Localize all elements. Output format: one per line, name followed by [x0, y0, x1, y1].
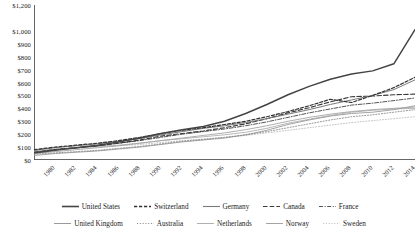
x-axis-tick-label: 1990 [148, 164, 162, 178]
x-axis-tick-label: 1986 [105, 164, 119, 178]
legend-swatch-icon [54, 220, 71, 227]
legend-label: Norway [286, 220, 309, 228]
legend-label: France [339, 203, 359, 211]
x-axis-tick-label: 2010 [359, 164, 373, 178]
x-axis-tick-label: 1998 [232, 164, 246, 178]
legend-item-canada[interactable]: Canada [263, 203, 305, 211]
y-axis-tick-label: $900 [17, 40, 31, 47]
y-axis-tick-label: $200 [17, 131, 31, 138]
x-axis-tick-label: 1982 [63, 164, 77, 178]
x-axis-tick-label: 2004 [296, 164, 310, 178]
legend-item-sweden[interactable]: Sweden [323, 220, 366, 228]
legend-item-norway[interactable]: Norway [266, 220, 309, 228]
x-axis-tick-label: 1988 [126, 164, 140, 178]
legend-row: United StatesSwitzerlandGermanyCanadaFra… [0, 198, 420, 215]
legend-swatch-icon [203, 203, 220, 210]
legend-item-united-states[interactable]: United States [62, 203, 121, 211]
legend-swatch-icon [319, 203, 336, 210]
legend-swatch-icon [266, 220, 283, 227]
legend-swatch-icon [134, 203, 151, 210]
y-axis-tick-label: $400 [17, 105, 31, 112]
legend-label: Switzerland [154, 203, 188, 211]
legend-item-germany[interactable]: Germany [203, 203, 250, 211]
x-axis-tick-label: 1996 [211, 164, 225, 178]
x-axis-tick-label: 1984 [84, 164, 98, 178]
legend-label: Canada [283, 203, 305, 211]
legend-swatch-icon [137, 220, 154, 227]
legend-label: Netherlands [217, 220, 252, 228]
x-axis-tick-label: 1980 [42, 164, 56, 178]
y-axis-tick-label: $500 [17, 92, 31, 99]
legend-swatch-icon [323, 220, 340, 227]
y-axis-tick-label: $1,200 [12, 2, 31, 9]
x-axis-tick-label: 2006 [317, 164, 331, 178]
legend-swatch-icon [62, 203, 79, 210]
x-axis-tick-label: 2012 [380, 164, 394, 178]
x-axis-tick-label: 1994 [190, 164, 204, 178]
legend-label: Australia [157, 220, 183, 228]
y-axis-tick-label: $600 [17, 79, 31, 86]
legend-swatch-icon [197, 220, 214, 227]
y-axis-tick-label: $300 [17, 118, 31, 125]
legend-item-france[interactable]: France [319, 203, 359, 211]
x-axis-tick-labels: 1980198219841986198819901992199419961998… [0, 162, 420, 196]
y-axis-tick-label: $700 [17, 66, 31, 73]
plot-area [34, 5, 415, 160]
x-axis-tick-label: 1992 [169, 164, 183, 178]
legend-row: United KingdomAustraliaNetherlandsNorway… [0, 215, 420, 232]
legend-item-netherlands[interactable]: Netherlands [197, 220, 252, 228]
legend-label: United States [82, 203, 121, 211]
x-axis-tick-label: 2014 [402, 164, 416, 178]
x-axis-tick-label: 2002 [275, 164, 289, 178]
chart-legend: United StatesSwitzerlandGermanyCanadaFra… [0, 198, 420, 238]
legend-label: Sweden [343, 220, 366, 228]
legend-label: Germany [223, 203, 250, 211]
x-axis-tick-label: 2008 [338, 164, 352, 178]
y-axis-tick-label: $100 [17, 144, 31, 151]
legend-item-australia[interactable]: Australia [137, 220, 183, 228]
series-line-germany [34, 80, 415, 150]
legend-label: United Kingdom [74, 220, 123, 228]
line-chart: $0$100$200$300$400$500$600$700$800$900$1… [0, 0, 420, 238]
legend-item-united-kingdom[interactable]: United Kingdom [54, 220, 123, 228]
legend-item-switzerland[interactable]: Switzerland [134, 203, 188, 211]
y-axis-tick-label: $1,000 [12, 27, 31, 34]
y-axis-tick-label: $800 [17, 53, 31, 60]
x-axis-tick-label: 2000 [253, 164, 267, 178]
legend-swatch-icon [263, 203, 280, 210]
